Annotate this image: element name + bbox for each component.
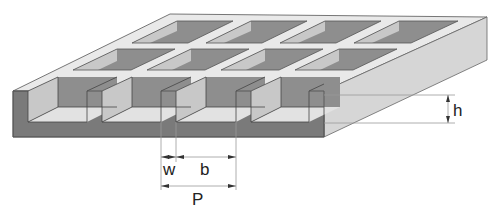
label-pitch: P (192, 190, 203, 209)
label-cell-width: b (200, 160, 209, 179)
label-height: h (453, 101, 462, 120)
label-wall-width: w (162, 160, 176, 179)
grid-structure-diagram: w b P h (0, 0, 499, 214)
